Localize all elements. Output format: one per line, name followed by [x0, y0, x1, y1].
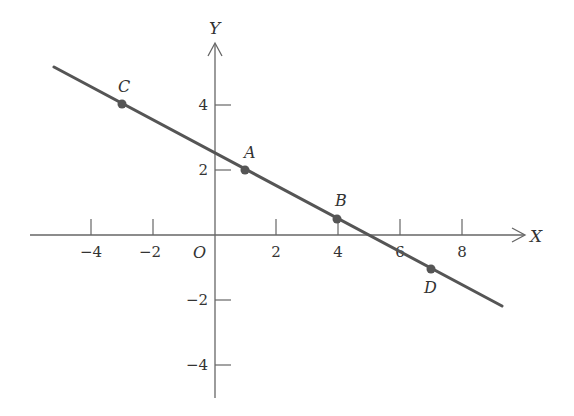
x-axis-label: X	[528, 226, 543, 246]
point-b: B	[333, 191, 348, 224]
y-tick-label: −4	[186, 356, 208, 374]
point-marker-icon	[333, 215, 342, 224]
y-tick-label: 4	[198, 96, 208, 114]
x-tick-label: −4	[80, 243, 102, 261]
point-marker-icon	[118, 100, 127, 109]
point-marker-icon	[427, 265, 436, 274]
point-label: B	[334, 191, 347, 210]
point-label: C	[118, 77, 130, 96]
x-tick-label: 4	[333, 243, 343, 261]
x-tick-label: 2	[271, 243, 281, 261]
point-c: C	[118, 77, 131, 109]
origin-label: O	[193, 243, 206, 262]
point-marker-icon	[241, 166, 250, 175]
point-a: A	[241, 143, 256, 175]
point-label: A	[242, 143, 256, 162]
point-d: D	[423, 265, 437, 298]
x-tick-label: −2	[139, 243, 161, 261]
coordinate-plane: X Y O −4 −2 2 4 6 8 4 2 −2 −4	[0, 0, 574, 416]
y-tick-label: −2	[186, 291, 208, 309]
x-tick-label: 8	[457, 243, 467, 261]
y-axis-label: Y	[209, 18, 222, 38]
y-tick-label: 2	[198, 161, 208, 179]
point-label: D	[423, 278, 437, 297]
y-axis: Y	[208, 18, 222, 398]
